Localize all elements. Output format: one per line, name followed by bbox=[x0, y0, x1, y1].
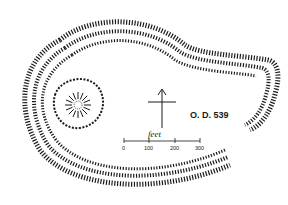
scale-bar: feet 0 100 200 300 bbox=[122, 129, 204, 151]
scale-unit-label: feet bbox=[148, 129, 161, 139]
north-arrow-icon bbox=[148, 89, 176, 128]
outer-rampart bbox=[60, 22, 278, 130]
scale-tick-300: 300 bbox=[195, 145, 204, 151]
scale-tick-200: 200 bbox=[170, 145, 179, 151]
inner-enclosure bbox=[54, 79, 103, 128]
earthwork-plan: O. D. 539 feet 0 100 200 300 bbox=[0, 0, 288, 205]
mound-icon bbox=[65, 92, 91, 118]
scale-tick-0: 0 bbox=[122, 145, 125, 151]
elevation-label: O. D. 539 bbox=[190, 110, 229, 120]
inner-rampart bbox=[72, 41, 256, 76]
scale-tick-100: 100 bbox=[144, 145, 153, 151]
